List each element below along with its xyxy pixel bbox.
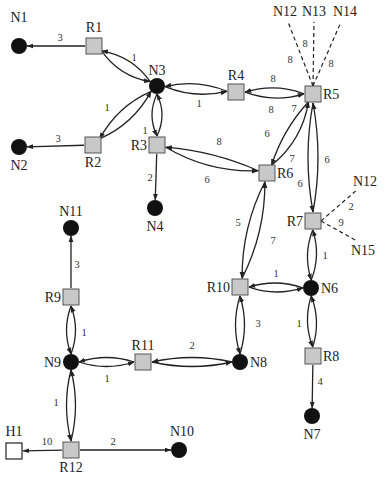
edge-r3-to-r6 [166, 147, 259, 171]
edge-n6-to-r10 [249, 283, 303, 288]
edge-weight-label: 1 [53, 397, 58, 408]
edge-r5-to-n14 [313, 22, 341, 86]
node-label: R5 [323, 87, 339, 102]
edge-r8-to-n7 [312, 365, 313, 408]
edge-n8-to-r11 [152, 358, 232, 363]
router-node-r2 [85, 137, 101, 153]
edge-r9-to-n9 [67, 306, 72, 354]
router-node-r11 [135, 354, 151, 370]
host-node-n7 [304, 408, 320, 424]
host-node-n1 [11, 38, 27, 54]
node-label: N12 [273, 4, 297, 19]
edge-weight-label: 8 [268, 104, 273, 115]
edge-weight-label: 6 [264, 128, 269, 139]
edge-weight-label: 1 [296, 318, 301, 329]
edge-weight-label: 2 [110, 436, 115, 447]
edge-weight-label: 2 [348, 201, 353, 212]
edge-weight-label: 6 [204, 174, 209, 185]
edge-r5-to-n13 [313, 22, 314, 86]
edge-r3-to-n3 [157, 94, 162, 136]
node-label: N10 [170, 424, 194, 439]
node-label: N2 [10, 158, 27, 173]
edge-n6-to-r7 [311, 230, 316, 280]
edge-weight-label: 1 [81, 327, 86, 338]
edge-weight-label: 1 [322, 250, 327, 261]
edge-weight-label: 7 [270, 235, 275, 246]
nodes-layer [6, 38, 321, 459]
edge-r8-to-n6 [311, 296, 316, 347]
router-node-r5 [305, 86, 321, 102]
router-node-r4 [228, 84, 244, 100]
edge-weight-label: 2 [147, 172, 152, 183]
node-label: R4 [228, 68, 244, 83]
node-label: R2 [85, 155, 101, 170]
node-label: N9 [44, 355, 61, 370]
router-node-r1 [86, 38, 102, 54]
edge-weight-label: 8 [270, 73, 275, 84]
host-node-n8 [232, 354, 248, 370]
edge-r11-to-n8 [152, 362, 232, 367]
edge-weight-label: 1 [273, 268, 278, 279]
edge-r3-to-n4 [155, 154, 156, 200]
edge-weight-label: 10 [42, 436, 53, 447]
edge-weight-label: 1 [131, 52, 136, 63]
node-label: R12 [59, 460, 82, 475]
edge-r12-to-n9 [71, 370, 76, 441]
edge-weight-label: 8 [328, 58, 333, 69]
host-node-n4 [147, 200, 163, 216]
edge-weight-label: 3 [57, 32, 62, 43]
host-node-n11 [63, 220, 79, 236]
node-label: R9 [45, 290, 61, 305]
edge-weight-label: 3 [55, 133, 60, 144]
node-label: N13 [302, 4, 326, 19]
edge-weight-label: 2 [189, 340, 194, 351]
edge-n9-to-r12 [67, 370, 72, 441]
edge-r7-to-n6 [307, 230, 312, 280]
node-label: R10 [207, 280, 230, 295]
edge-r10-to-n6 [249, 287, 303, 292]
host-node-n9 [63, 354, 79, 370]
labels-layer: 331111888626776657113142131110288829N1R1… [5, 4, 377, 475]
node-label: N3 [148, 63, 165, 78]
node-label: N12 [353, 174, 377, 189]
node-label: N14 [333, 4, 357, 19]
host-node-n3 [149, 78, 165, 94]
edge-weight-label: 7 [289, 153, 294, 164]
host-node-n6 [303, 280, 319, 296]
edge-n9-to-r11 [79, 362, 134, 367]
edge-weight-label: 6 [324, 154, 329, 165]
network-diagram: 331111888626776657113142131110288829N1R1… [0, 0, 385, 477]
edge-n3-to-r1 [102, 51, 151, 82]
node-label: R6 [277, 166, 293, 181]
node-label: R8 [323, 349, 339, 364]
node-label: H1 [5, 424, 22, 439]
node-label: R3 [131, 138, 147, 153]
edge-weight-label: 1 [104, 373, 109, 384]
edge-n6-to-r8 [307, 296, 312, 347]
edge-weight-label: 4 [317, 376, 323, 387]
edge-weight-label: 9 [338, 217, 343, 228]
node-label: N11 [59, 204, 83, 219]
node-label: R11 [132, 338, 155, 353]
edge-r4-to-r5 [245, 92, 304, 98]
edge-weight-label: 3 [255, 318, 260, 329]
node-label: N8 [250, 355, 267, 370]
router-node-r12 [63, 442, 79, 458]
edge-r2-to-n2 [27, 145, 84, 147]
edge-r7-to-r5 [313, 103, 318, 212]
edge-r11-to-n9 [79, 358, 134, 363]
edge-weight-label: 8 [302, 38, 307, 49]
edge-r5-to-r7 [308, 103, 313, 212]
edge-weight-label: 7 [291, 103, 296, 114]
edge-weight-label: 3 [74, 259, 79, 270]
edge-weight-label: 5 [235, 217, 240, 228]
node-label: N7 [303, 427, 320, 442]
router-node-r8 [305, 348, 321, 364]
node-label: N15 [351, 243, 375, 258]
edge-r6-to-r3 [166, 147, 259, 171]
edge-weight-label: 8 [216, 136, 221, 147]
router-node-r10 [232, 279, 248, 295]
node-label: N4 [146, 219, 163, 234]
edge-n9-to-r9 [71, 306, 76, 354]
edge-n3-to-r3 [152, 94, 157, 136]
